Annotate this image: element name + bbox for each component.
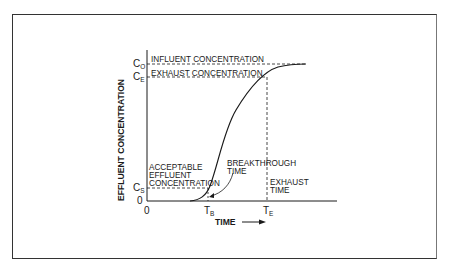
breakthrough-label-line2: TIME: [227, 167, 247, 176]
y-axis-title: EFFLUENT CONCENTRATION: [116, 79, 126, 201]
cs-label: CS: [133, 182, 145, 194]
exhaust-concentration-label: EXHAUST CONCENTRATION: [151, 69, 263, 78]
x-axis-title: TIME: [215, 217, 236, 227]
breakthrough-curve-diagram: CO CE CS 0 0 TB TE INFLUENT CONCENTRATIO…: [0, 0, 449, 272]
tb-label: TB: [204, 205, 214, 217]
acceptable-label-line3: CONCENTRATION: [149, 179, 220, 188]
influent-concentration-label: INFLUENT CONCENTRATION: [151, 55, 264, 64]
exhaust-time-label-line2: TIME: [270, 186, 290, 195]
arrow-right-icon: [259, 220, 266, 225]
breakthrough-arrowhead-icon: [209, 193, 214, 198]
y-zero-label: 0: [137, 195, 143, 206]
ce-label: CE: [133, 71, 145, 83]
c0-label: CO: [133, 58, 145, 70]
x-zero-label: 0: [144, 205, 150, 216]
te-label: TE: [263, 205, 274, 217]
